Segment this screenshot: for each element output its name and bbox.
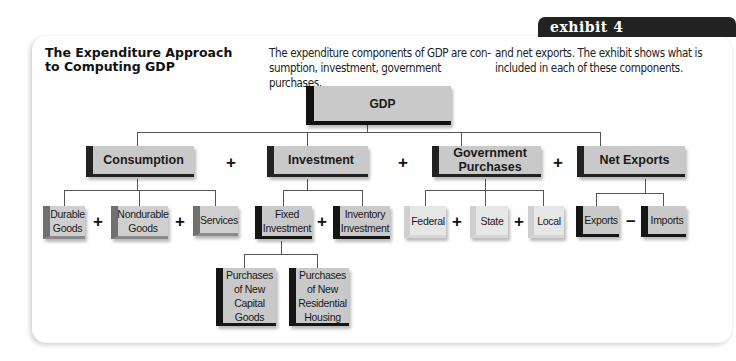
- node-label: State: [480, 214, 503, 228]
- node-label: Local: [537, 214, 561, 228]
- connector: [307, 179, 308, 190]
- plus-operator: +: [514, 213, 524, 230]
- node-label: Inventory Investment: [340, 207, 390, 235]
- connector: [425, 190, 543, 191]
- connector: [600, 132, 601, 146]
- node-investment: Investment: [267, 146, 368, 177]
- node-local: Local: [528, 206, 564, 238]
- node-label: Durable Goods: [50, 207, 85, 235]
- connector: [137, 132, 138, 146]
- connector: [215, 190, 216, 206]
- plus-operator: +: [398, 154, 408, 171]
- node-label: Purchases of New Residential Housing: [298, 268, 347, 324]
- connector: [362, 190, 363, 206]
- connector: [485, 179, 486, 190]
- node-label: Exports: [584, 213, 618, 227]
- connector: [244, 254, 318, 255]
- node-label: Nondurable Goods: [117, 207, 168, 235]
- connector: [596, 193, 664, 194]
- plus-operator: +: [553, 154, 563, 171]
- node-state: State: [470, 206, 508, 238]
- node-label: Fixed Investment: [262, 207, 312, 235]
- node-label: Services: [200, 213, 238, 227]
- node-consumption: Consumption: [86, 146, 194, 177]
- node-durable-goods: Durable Goods: [43, 206, 85, 239]
- connector: [543, 190, 544, 206]
- node-label: Purchases of New Capital Goods: [225, 268, 274, 324]
- connector: [317, 254, 318, 268]
- connector: [137, 132, 601, 133]
- connector: [281, 241, 282, 255]
- node-inventory-investment: Inventory Investment: [333, 206, 390, 239]
- plus-operator: +: [175, 213, 185, 230]
- node-net-exports: Net Exports: [577, 146, 685, 177]
- node-label: Government Purchases: [443, 146, 537, 174]
- minus-operator: –: [626, 212, 635, 229]
- node-purchases-new-residential-housing: Purchases of New Residential Housing: [289, 268, 349, 326]
- node-fixed-investment: Fixed Investment: [255, 206, 312, 239]
- node-label: Imports: [651, 213, 684, 227]
- connector: [425, 190, 426, 206]
- node-gdp: GDP: [306, 86, 451, 125]
- node-label: Net Exports: [599, 153, 669, 167]
- plus-operator: +: [317, 213, 327, 230]
- node-label: Consumption: [103, 153, 184, 167]
- node-label: Investment: [288, 153, 354, 167]
- exhibit-tab: exhibit 4: [538, 17, 736, 37]
- connector: [64, 190, 216, 191]
- connector: [137, 179, 138, 190]
- node-imports: Imports: [641, 206, 686, 237]
- exhibit-title: The Expenditure Approach to Computing GD…: [45, 46, 245, 74]
- connector: [596, 193, 597, 206]
- node-label: GDP: [369, 97, 395, 111]
- plus-operator: +: [93, 213, 103, 230]
- connector: [485, 190, 486, 206]
- connector: [461, 132, 462, 146]
- node-exports: Exports: [576, 206, 619, 237]
- node-nondurable-goods: Nondurable Goods: [111, 206, 168, 239]
- description-column-1: The expenditure components of GDP are co…: [269, 46, 494, 91]
- node-services: Services: [193, 206, 238, 236]
- description-column-2: and net exports. The exhibit shows what …: [495, 46, 725, 76]
- plus-operator: +: [452, 213, 462, 230]
- connector: [283, 190, 363, 191]
- connector: [283, 190, 284, 206]
- connector: [244, 254, 245, 268]
- connector: [64, 190, 65, 206]
- plus-operator: +: [226, 154, 236, 171]
- connector: [139, 190, 140, 206]
- connector: [663, 193, 664, 206]
- node-label: Federal: [411, 214, 445, 228]
- connector: [307, 132, 308, 146]
- connector: [645, 188, 646, 194]
- node-federal: Federal: [404, 206, 446, 238]
- node-government-purchases: Government Purchases: [432, 146, 541, 177]
- node-purchases-new-capital-goods: Purchases of New Capital Goods: [216, 268, 276, 326]
